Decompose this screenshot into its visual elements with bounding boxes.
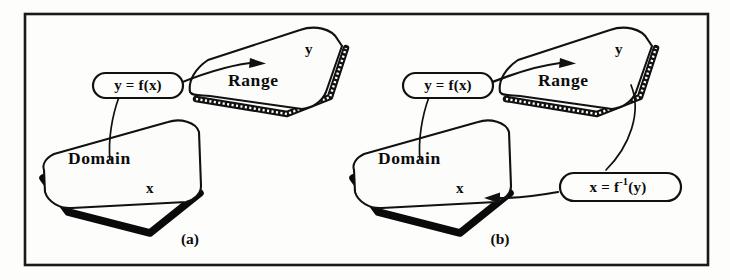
- figure-root: y = f(x) Domain x Range y (a): [0, 0, 730, 280]
- range-label-a: Range: [228, 70, 279, 90]
- panel-b: y = f(x) x = f-1(y) Domain x Range y: [353, 28, 681, 248]
- inverse-pill-b[interactable]: x = f-1(y): [560, 173, 681, 201]
- domain-var-b: x: [456, 180, 464, 196]
- range-var-a: y: [305, 41, 313, 57]
- panel-caption-b: (b): [491, 230, 510, 248]
- panel-caption-a: (a): [181, 230, 199, 248]
- forward-pill-label-a: y = f(x): [114, 77, 162, 94]
- inverse-pill-label-b: x = f-1(y): [590, 176, 647, 196]
- range-var-b: y: [615, 41, 623, 57]
- diagram-canvas: y = f(x) Domain x Range y (a): [0, 0, 730, 280]
- panel-a: y = f(x) Domain x Range y (a): [43, 28, 346, 248]
- domain-blob-b: [353, 120, 511, 233]
- domain-var-a: x: [146, 180, 154, 196]
- domain-label-a: Domain: [68, 148, 131, 168]
- inverse-pill-superscript: -1: [619, 176, 628, 187]
- inverse-pill-tail: (y): [628, 179, 646, 196]
- forward-pill-a[interactable]: y = f(x): [93, 73, 183, 98]
- domain-label-b: Domain: [378, 148, 441, 168]
- domain-blob-a: [43, 120, 201, 233]
- range-label-b: Range: [538, 70, 589, 90]
- forward-pill-label-b: y = f(x): [424, 77, 472, 94]
- forward-pill-b[interactable]: y = f(x): [403, 73, 493, 98]
- inverse-pill-lead: x = f: [590, 179, 620, 195]
